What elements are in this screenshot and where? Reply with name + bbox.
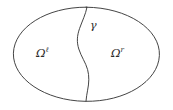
label-omega-right-base: Ω: [111, 46, 121, 60]
label-omega-right-superscript: r: [121, 45, 124, 54]
label-omega-left-superscript: ℓ: [46, 45, 49, 54]
label-omega-left-base: Ω: [36, 46, 46, 60]
label-gamma-text: γ: [90, 19, 97, 32]
label-gamma: γ: [90, 20, 97, 31]
figure-drawing: [0, 0, 173, 110]
gamma-path: [77, 7, 88, 101]
label-omega-left: Ωℓ: [36, 46, 49, 59]
interface-curve-gamma: [77, 7, 88, 101]
label-omega-right: Ωr: [111, 46, 124, 59]
figure-canvas: Ωℓ Ωr γ: [0, 0, 173, 110]
